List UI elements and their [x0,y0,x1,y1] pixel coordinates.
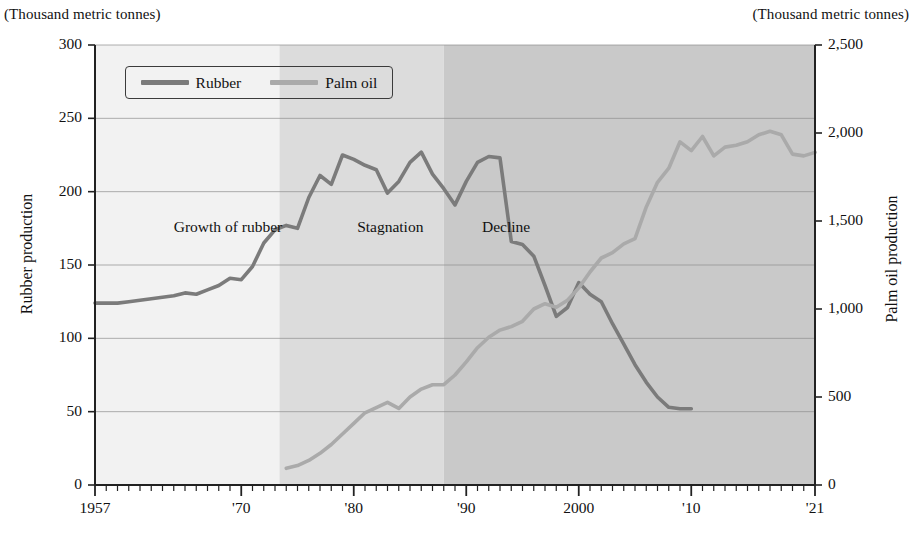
legend-item-palm-oil[interactable]: Palm oil [270,74,377,92]
annotation-3: Decline [482,218,530,236]
y-tick-label-right: 2,500 [828,35,888,53]
y-tick-label-right: 500 [828,387,888,405]
legend-label-rubber: Rubber [196,74,242,92]
y-tick-label-right: 0 [828,475,888,493]
chart-legend[interactable]: Rubber Palm oil [125,66,393,99]
x-tick-label: '10 [651,499,731,517]
y-tick-label-left: 150 [22,255,82,273]
y-tick-label-right: 2,000 [828,123,888,141]
y-tick-label-left: 50 [22,402,82,420]
y-tick-label-right: 1,500 [828,211,888,229]
y-tick-label-left: 300 [22,35,82,53]
x-tick-label: 2000 [539,499,619,517]
x-tick-label: '70 [201,499,281,517]
y-tick-label-left: 100 [22,328,82,346]
chart-canvas: (Thousand metric tonnes) (Thousand metri… [0,0,917,540]
x-tick-label: 1957 [55,499,135,517]
x-tick-label: '21 [775,499,855,517]
annotation-2: Stagnation [357,218,423,236]
legend-label-palm-oil: Palm oil [325,74,377,92]
annotation-1: Growth of rubber [174,218,282,236]
x-tick-label: '90 [426,499,506,517]
legend-swatch-rubber [141,80,189,85]
y-tick-label-left: 250 [22,108,82,126]
legend-item-rubber[interactable]: Rubber [141,74,242,92]
y-tick-label-left: 0 [22,475,82,493]
x-tick-label: '80 [314,499,394,517]
y-tick-label-left: 200 [22,182,82,200]
y-tick-label-right: 1,000 [828,299,888,317]
legend-swatch-palm-oil [270,80,318,85]
